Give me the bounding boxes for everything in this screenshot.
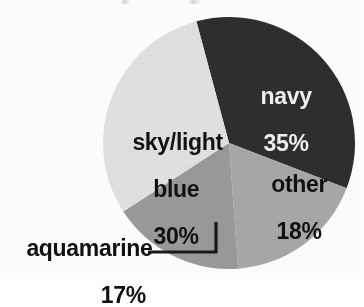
slice-label-other-name: other bbox=[271, 171, 327, 197]
slice-label-aquamarine-pct: 17% bbox=[2, 284, 152, 307]
slice-label-sky-pct: 30% bbox=[154, 223, 199, 249]
slice-label-navy-name: navy bbox=[261, 83, 312, 109]
slice-label-aquamarine-name: aquamarine bbox=[26, 235, 152, 261]
slice-label-other-pct: 18% bbox=[277, 218, 322, 244]
slice-label-sky-line1: sky/light bbox=[132, 129, 223, 155]
slice-label-sky-line2: blue bbox=[153, 176, 199, 202]
slice-label-other: other 18% bbox=[244, 150, 330, 267]
slice-label-aquamarine: aquamarine 17% bbox=[2, 214, 152, 307]
